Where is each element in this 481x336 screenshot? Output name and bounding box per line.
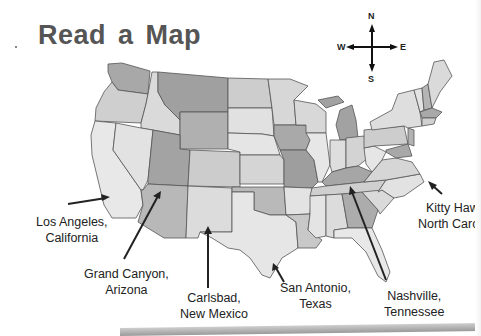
label-nashville: Nashville, Tennessee (384, 288, 444, 320)
compass-rose (346, 24, 398, 72)
label-kitty-hawk: Kitty Haw North Carc (418, 200, 479, 232)
label-grand-canyon: Grand Canyon, Arizona (84, 266, 169, 298)
state-florida (334, 228, 390, 282)
state-maine (428, 60, 452, 108)
state-indiana (330, 140, 346, 172)
state-kansas (240, 155, 284, 184)
us-map (0, 0, 481, 336)
compass-north-label: N (368, 11, 375, 21)
state-mississippi (308, 195, 326, 238)
compass-west-label: W (337, 42, 346, 52)
state-maryland (386, 144, 412, 158)
state-arizona (138, 184, 188, 238)
state-iowa (274, 125, 310, 150)
state-new-york (370, 90, 422, 130)
state-new-jersey (408, 128, 414, 146)
compass-east-label: E (400, 42, 406, 52)
page-right-edge (475, 0, 481, 336)
compass-south-label: S (368, 74, 374, 84)
state-connecticut (422, 118, 436, 126)
state-colorado (188, 150, 240, 187)
label-san-antonio: San Antonio, Texas (280, 280, 351, 312)
state-wyoming (180, 112, 228, 149)
label-carlsbad: Carlsbad, New Mexico (180, 290, 248, 322)
state-arkansas (284, 187, 312, 215)
arrow-los-angeles (68, 198, 106, 204)
label-los-angeles: Los Angeles, California (36, 214, 108, 246)
state-south-dakota (228, 108, 274, 136)
state-pennsylvania (364, 126, 408, 148)
state-north-dakota (228, 78, 272, 108)
